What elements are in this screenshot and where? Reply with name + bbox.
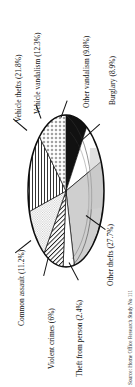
crime-pie-figure: Vehicle thefts (21.8%) Vehicle vandalism… [0, 0, 135, 387]
label-vehicle-vandalism: Vehicle vandalism (12.3%) [34, 33, 41, 115]
label-common-assault: Common assault (11.2%) [18, 250, 25, 326]
pie-chart-svg [26, 112, 106, 270]
label-burglary: Burglary (8.9%) [109, 56, 116, 105]
label-theft-from-person: Theft from person (2.4%) [76, 300, 83, 377]
pie-chart [26, 112, 106, 270]
source-note: Source: Home Office Research Study No 11… [128, 290, 133, 385]
pie-depth-shade [88, 148, 104, 210]
label-other-vandalism: Other vandalism (9.8%) [83, 36, 90, 108]
label-violent-crimes: Violent crimes (6%) [48, 308, 55, 369]
label-other-thefts: Other thefts (27.7%) [107, 224, 114, 286]
label-vehicle-thefts: Vehicle thefts (21.8%) [15, 55, 22, 122]
